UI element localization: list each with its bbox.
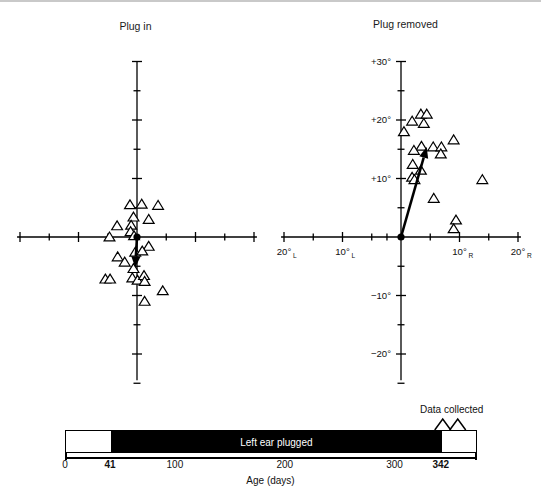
data-point-triangle	[112, 252, 123, 261]
svg-text:−20°: −20°	[371, 348, 391, 359]
svg-text:R: R	[469, 252, 474, 259]
data-point-triangle	[451, 215, 462, 224]
timeline-bar-label: Left ear plugged	[111, 436, 442, 447]
data-point-triangle	[139, 296, 150, 305]
data-point-triangle	[136, 199, 147, 208]
timeline-axis-title: Age (days)	[0, 475, 541, 486]
svg-text:L: L	[293, 252, 297, 259]
data-point-triangle	[448, 135, 459, 144]
svg-text:20°: 20°	[511, 246, 526, 257]
data-point-triangle	[407, 159, 418, 168]
timeline-endcap-right	[475, 453, 477, 460]
data-point-triangle	[428, 193, 439, 202]
scatter-panel-plug-removed: Plug removed 20°L10°L10°R20°R+30°+20°+10…	[270, 0, 541, 400]
panel-title-plug-in: Plug in	[0, 20, 271, 32]
timeline-tick-100: 100	[167, 459, 184, 470]
svg-text:10°: 10°	[335, 246, 350, 257]
scatter-panel-plug-in: Plug in	[0, 0, 271, 400]
timeline-tick-200: 200	[276, 459, 293, 470]
panel-title-plug-removed: Plug removed	[270, 18, 541, 30]
data-collected-label: Data collected	[420, 404, 483, 415]
scatter-plot-plug-in	[0, 0, 271, 400]
svg-text:−10°: −10°	[371, 290, 391, 301]
timeline-tick-342: 342	[432, 459, 449, 470]
timeline-track: Left ear plugged	[65, 430, 477, 453]
svg-text:R: R	[527, 252, 532, 259]
data-point-triangle	[153, 200, 164, 209]
timeline-baseline	[65, 457, 477, 459]
data-point-triangle	[477, 175, 488, 184]
data-point-triangle	[157, 286, 168, 295]
data-point-triangle	[399, 127, 410, 136]
origin-dot	[133, 233, 140, 240]
data-point-triangle	[448, 224, 459, 233]
timeline-tick-41: 41	[104, 459, 115, 470]
timeline-plugged-segment: Left ear plugged	[111, 431, 442, 452]
svg-text:10°: 10°	[452, 246, 467, 257]
scatter-plot-plug-removed: 20°L10°L10°R20°R+30°+20°+10°−10°−20°	[270, 0, 541, 400]
timeline-tick-300: 300	[386, 459, 403, 470]
svg-text:L: L	[352, 252, 356, 259]
svg-text:+30°: +30°	[371, 56, 391, 67]
timeline-section: Data collected Left ear plugged 04110020…	[0, 404, 541, 501]
svg-text:+20°: +20°	[371, 114, 391, 125]
timeline-tick-0: 0	[62, 459, 68, 470]
data-point-triangle	[112, 221, 123, 230]
svg-text:+10°: +10°	[371, 173, 391, 184]
data-point-triangle	[143, 241, 154, 250]
svg-text:20°: 20°	[277, 246, 292, 257]
data-point-triangle	[125, 200, 136, 209]
data-point-triangle	[143, 214, 154, 223]
origin-dot	[397, 233, 404, 240]
data-point-triangle	[418, 119, 429, 128]
